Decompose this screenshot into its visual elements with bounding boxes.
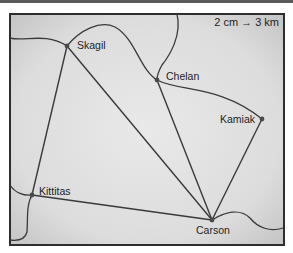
- road-kamiak-carson: [212, 119, 262, 220]
- chelan-marker-icon[interactable]: [155, 78, 160, 83]
- road-chelan-carson: [157, 80, 212, 220]
- town-label-kittitas: Kittitas: [39, 185, 71, 197]
- map-canvas: [0, 0, 293, 253]
- road-skagil-kittitas: [32, 46, 67, 195]
- river-west: [10, 185, 32, 240]
- scale-label: 2 cm → 3 km: [214, 16, 279, 28]
- kamiak-marker-icon[interactable]: [260, 117, 265, 122]
- town-label-chelan: Chelan: [166, 70, 199, 82]
- carson-marker-icon[interactable]: [210, 218, 215, 223]
- town-label-kamiak: Kamiak: [220, 113, 255, 125]
- skagil-marker-icon[interactable]: [65, 44, 70, 49]
- town-label-carson: Carson: [196, 224, 230, 236]
- town-label-skagil: Skagil: [77, 39, 106, 51]
- kittitas-marker-icon[interactable]: [30, 193, 35, 198]
- river-north: [10, 25, 262, 119]
- road-kittitas-carson: [32, 195, 212, 220]
- rivers: [10, 14, 283, 240]
